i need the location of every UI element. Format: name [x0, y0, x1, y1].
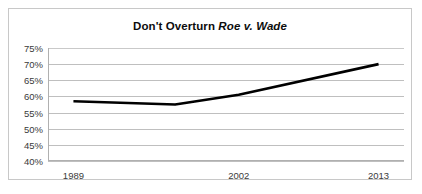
chart-title: Don't Overturn Roe v. Wade — [9, 20, 411, 32]
chart-frame: Don't Overturn Roe v. Wade 75%70%65%60%5… — [8, 8, 412, 180]
series-line-dont-overturn — [73, 64, 378, 104]
x-axis-tick-label: 2002 — [228, 170, 249, 181]
y-axis-tick-label: 65% — [24, 75, 43, 86]
chart-title-case-name: Roe v. Wade — [218, 20, 287, 32]
y-axis-tick-label: 55% — [24, 107, 43, 118]
x-axis-tick-label: 2013 — [368, 170, 389, 181]
chart-title-prefix: Don't Overturn — [133, 20, 218, 32]
gridline — [48, 161, 404, 162]
y-axis-tick-label: 60% — [24, 91, 43, 102]
y-axis-tick-label: 75% — [24, 43, 43, 54]
x-axis-tick-label: 1989 — [63, 170, 84, 181]
plot-area: 75%70%65%60%55%50%45%40% 198920022013 — [48, 48, 404, 161]
series-line-chart — [48, 48, 404, 161]
y-axis-tick-label: 50% — [24, 123, 43, 134]
y-axis-tick-label: 45% — [24, 139, 43, 150]
y-axis-tick-label: 70% — [24, 59, 43, 70]
y-axis-tick-label: 40% — [24, 156, 43, 167]
